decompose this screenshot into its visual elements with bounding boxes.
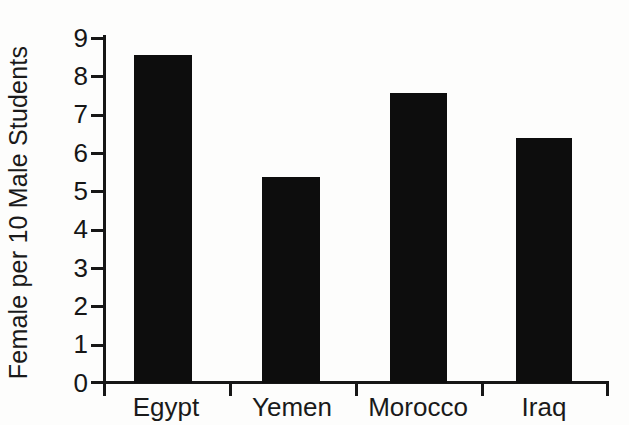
bar-egypt: [134, 55, 192, 383]
y-tick-label: 4: [54, 216, 88, 242]
bar-morocco: [390, 93, 447, 383]
bar-yemen: [262, 177, 320, 383]
x-tick-label-yemen: Yemen: [229, 392, 355, 422]
y-tick-label: 6: [54, 140, 88, 166]
y-tick-label: 1: [54, 331, 88, 357]
plot-area: [103, 38, 607, 383]
y-tick-label: 2: [54, 293, 88, 319]
y-axis-tick-labels: 9 8 7 6 5 4 3 2 1 0: [50, 0, 88, 425]
y-tick-label: 3: [54, 255, 88, 281]
x-tick-label-iraq: Iraq: [481, 392, 607, 422]
x-tick-label-morocco: Morocco: [355, 392, 481, 422]
bar-chart: Female per 10 Male Students 9 8 7 6 5 4 …: [0, 0, 629, 425]
bar-iraq: [516, 138, 572, 383]
y-tick-label: 0: [54, 370, 88, 396]
x-tick-label-egypt: Egypt: [103, 392, 229, 422]
y-tick-label: 9: [54, 25, 88, 51]
y-axis-title: Female per 10 Male Students: [0, 0, 36, 425]
y-tick-label: 7: [54, 101, 88, 127]
y-tick-label: 5: [54, 178, 88, 204]
y-tick-label: 8: [54, 63, 88, 89]
